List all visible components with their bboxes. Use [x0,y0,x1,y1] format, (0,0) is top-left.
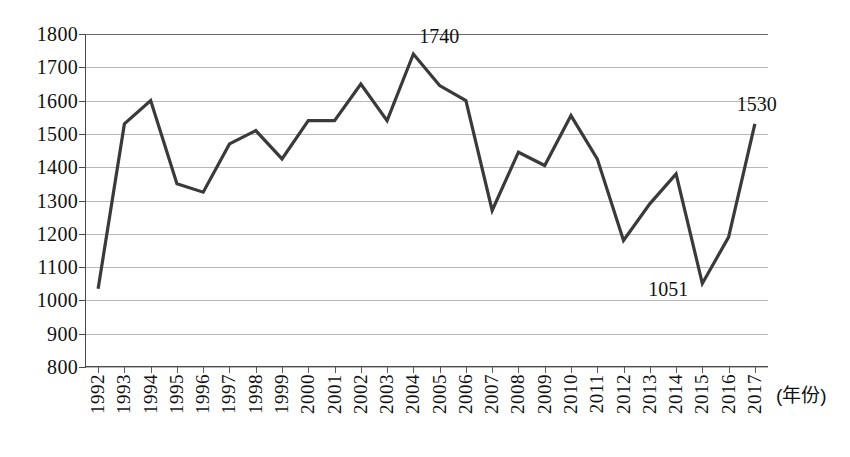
x-tick-label: 2005 [430,374,449,414]
gridline [86,134,768,135]
x-tick-mark [413,367,414,373]
x-tick-mark [256,367,257,373]
x-tick-mark [729,367,730,373]
y-tick-mark [79,201,86,202]
gridline [86,101,768,102]
x-tick-mark [676,367,677,373]
x-tick-mark [98,367,99,373]
gridline [86,267,768,268]
y-tick-label: 900 [8,324,78,344]
x-tick-mark [361,367,362,373]
x-tick-mark [203,367,204,373]
y-tick-mark [79,367,86,368]
x-tick-label: 1995 [167,374,186,414]
gridline [86,234,768,235]
x-tick-label: 2014 [666,374,685,414]
x-tick-label: 2010 [561,374,580,414]
x-tick-label: 2001 [325,374,344,414]
x-tick-mark [151,367,152,373]
x-tick-label: 2008 [508,374,527,414]
x-tick-mark [650,367,651,373]
x-tick-label: 2011 [587,374,606,413]
gridline [86,167,768,168]
x-tick-mark [282,367,283,373]
gridline [86,334,768,335]
x-tick-label: 2012 [614,374,633,414]
y-tick-label: 1600 [8,91,78,111]
y-tick-label: 800 [8,357,78,377]
x-tick-label: 2002 [351,374,370,414]
data-label: 1530 [737,94,777,114]
x-tick-label: 2006 [456,374,475,414]
x-tick-mark [545,367,546,373]
x-tick-mark [440,367,441,373]
x-tick-mark [571,367,572,373]
y-tick-label: 1200 [8,224,78,244]
y-tick-mark [79,267,86,268]
x-tick-mark [466,367,467,373]
y-tick-mark [79,134,86,135]
x-tick-mark [124,367,125,373]
gridline [86,67,768,68]
x-tick-label: 1998 [246,374,265,414]
gridline [86,300,768,301]
data-label: 1051 [648,279,688,299]
x-tick-label: 2009 [535,374,554,414]
x-tick-mark [597,367,598,373]
y-tick-mark [79,67,86,68]
x-tick-label: 1999 [272,374,291,414]
y-tick-mark [79,101,86,102]
x-tick-mark [177,367,178,373]
y-tick-label: 1400 [8,157,78,177]
y-tick-label: 1100 [8,257,78,277]
x-tick-label: 2017 [745,374,764,414]
line-chart: 8009001000110012001300140015001600170018… [0,0,850,457]
gridline [86,201,768,202]
y-tick-label: 1500 [8,124,78,144]
x-tick-mark [624,367,625,373]
y-tick-mark [79,167,86,168]
gridline [86,367,768,368]
y-axis: 8009001000110012001300140015001600170018… [0,0,78,457]
y-tick-mark [79,234,86,235]
data-label: 1740 [419,26,459,46]
x-tick-mark [335,367,336,373]
y-tick-label: 1700 [8,57,78,77]
x-tick-label: 2013 [640,374,659,414]
plot-area [85,34,768,367]
x-tick-label: 2003 [377,374,396,414]
x-tick-label: 1997 [219,374,238,414]
x-tick-label: 2016 [719,374,738,414]
y-tick-mark [79,34,86,35]
x-tick-mark [755,367,756,373]
x-tick-label: 2015 [692,374,711,414]
x-tick-label: 1992 [88,374,107,414]
y-tick-label: 1800 [8,24,78,44]
x-tick-label: 1996 [193,374,212,414]
x-tick-mark [229,367,230,373]
x-tick-mark [518,367,519,373]
x-tick-label: 2004 [403,374,422,414]
x-tick-label: 2000 [298,374,317,414]
y-tick-label: 1000 [8,290,78,310]
y-tick-mark [79,300,86,301]
x-tick-label: 1994 [141,374,160,414]
x-tick-mark [492,367,493,373]
x-tick-mark [387,367,388,373]
x-tick-mark [702,367,703,373]
x-tick-mark [308,367,309,373]
y-tick-label: 1300 [8,191,78,211]
x-axis-caption: (年份) [776,386,827,405]
x-tick-label: 1993 [114,374,133,414]
y-tick-mark [79,334,86,335]
x-tick-label: 2007 [482,374,501,414]
